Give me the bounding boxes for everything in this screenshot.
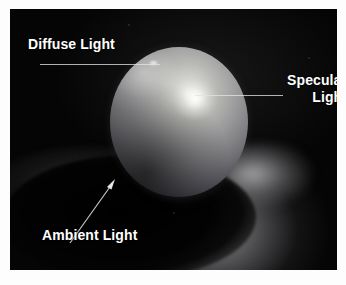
ambient-light-label: Ambient Light	[42, 227, 137, 244]
dust-speck	[308, 57, 310, 59]
diffuse-light-label: Diffuse Light	[28, 36, 115, 53]
diffuse-leader-line	[40, 64, 160, 65]
shaded-sphere	[110, 47, 248, 197]
specular-label-line-2: Light	[259, 89, 337, 106]
dust-speck	[128, 24, 130, 26]
dust-speck	[173, 212, 175, 214]
specular-label-line-1: Specular	[259, 72, 337, 89]
render-scene: Diffuse Light Specular Light Ambient Lig…	[10, 9, 337, 270]
specular-highlight	[172, 79, 218, 119]
figure-page: Diffuse Light Specular Light Ambient Lig…	[0, 0, 346, 285]
specular-light-label: Specular Light	[259, 72, 337, 106]
sphere-rim-light	[110, 47, 248, 197]
